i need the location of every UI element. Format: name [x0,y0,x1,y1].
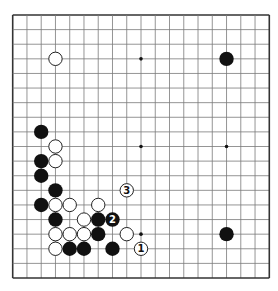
white-stone [49,52,62,65]
black-stone [77,242,91,256]
white-stone [63,227,76,240]
white-stone-move-3: 3 [120,184,133,197]
black-stone [34,169,48,183]
black-stone [105,242,119,256]
black-stone-move-2: 2 [105,212,119,226]
white-stone [92,198,105,211]
black-stone [63,242,77,256]
white-stone [49,242,62,255]
white-stone [49,198,62,211]
star-point [139,57,143,61]
white-stone [49,154,62,167]
black-stone [91,227,105,241]
star-point [225,145,229,149]
black-stone [34,198,48,212]
white-stone [77,213,90,226]
star-point [139,145,143,149]
white-stone [77,227,90,240]
white-stone [49,140,62,153]
black-stone [48,212,62,226]
move-number: 2 [109,214,116,225]
white-stone [120,227,133,240]
white-stone-move-1: 1 [134,242,147,255]
black-stone [219,227,233,241]
move-number: 1 [138,243,145,254]
stones-layer: 321 [34,52,234,256]
black-stone [48,183,62,197]
black-stone [34,154,48,168]
star-point [139,232,143,236]
go-board: 321 [0,0,278,291]
white-stone [49,227,62,240]
black-stone [91,212,105,226]
black-stone [34,125,48,139]
black-stone [219,52,233,66]
move-number: 3 [123,185,130,196]
white-stone [63,198,76,211]
